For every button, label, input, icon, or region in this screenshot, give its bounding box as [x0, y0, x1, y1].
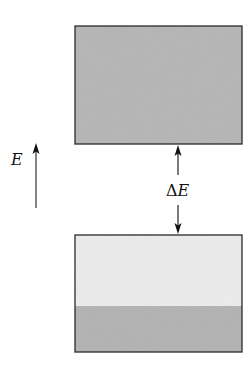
lower-band-filled-region [75, 306, 242, 352]
upper-band [75, 26, 242, 144]
gap-variable: E [177, 181, 190, 200]
band-diagram: E ΔE [0, 0, 249, 373]
delta-symbol: Δ [166, 181, 178, 200]
lower-band [75, 235, 242, 352]
energy-axis-label: E [10, 150, 23, 169]
band-gap-label: ΔE [166, 181, 190, 200]
energy-axis: E [10, 143, 40, 208]
lower-band-empty-region [75, 235, 242, 306]
band-gap-annotation: ΔE [166, 145, 190, 234]
